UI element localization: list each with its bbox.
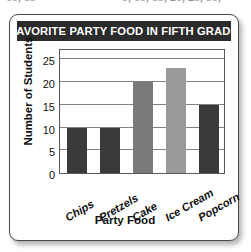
- y-axis-title: Number of Students: [22, 32, 34, 150]
- clipped-text-right: 5, 10, 15, 20, 25, 30,: [122, 0, 221, 5]
- y-axis-tick-label: 25: [43, 55, 55, 67]
- gridline: [60, 58, 224, 59]
- y-axis-tick-label: 5: [49, 146, 55, 158]
- chart-title: FAVORITE PARTY FOOD IN FIFTH GRADE: [10, 25, 238, 37]
- y-axis-tick-label: 0: [49, 169, 55, 181]
- y-axis-tick-label: 15: [43, 101, 55, 113]
- plot-area: 0510152025 ChipsPretzelsCakeIce CreamPop…: [59, 49, 225, 174]
- chart-card: FAVORITE PARTY FOOD IN FIFTH GRADE Numbe…: [9, 14, 239, 241]
- bar-ice-cream: [166, 68, 186, 173]
- bar-popcorn: [199, 105, 219, 173]
- y-axis-tick-label: 10: [43, 124, 55, 136]
- x-axis-title: Party Food: [10, 213, 240, 226]
- y-axis-tick-label: 20: [43, 78, 55, 90]
- clipped-header-strip: 10, 15 5, 10, 15, 20, 25, 30,: [0, 0, 251, 11]
- clipped-text-left: 10, 15: [6, 0, 36, 5]
- bar-pretzels: [100, 128, 120, 173]
- bar-cake: [133, 82, 153, 173]
- bar-chips: [67, 128, 87, 173]
- chart-title-bar: FAVORITE PARTY FOOD IN FIFTH GRADE: [17, 21, 231, 41]
